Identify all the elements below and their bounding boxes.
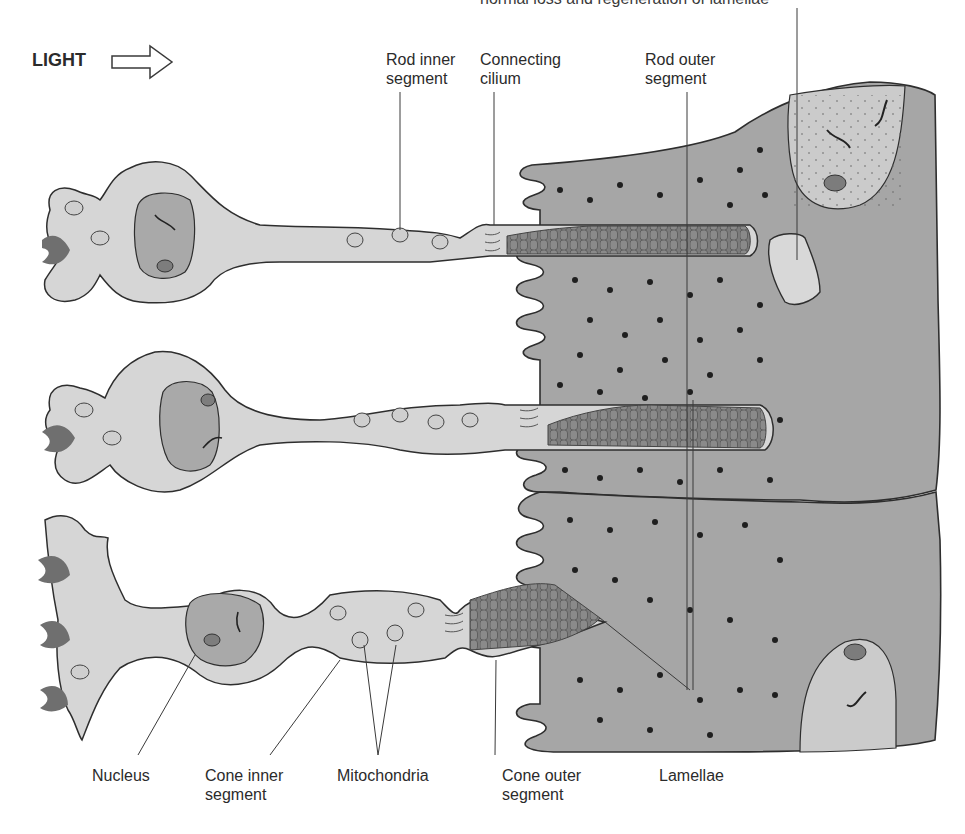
label-lamellae: Lamellae [659,766,724,785]
cone-cell [38,516,605,740]
top-caption-partial: normal loss and regeneration of lamellae [480,0,769,8]
label-cone-outer-segment: Cone outer segment [502,766,581,804]
epithelial-nucleolus-lower [844,644,866,660]
label-rod-outer-segment: Rod outer segment [645,50,715,88]
rod-top-lamellae [507,226,750,254]
cone-nucleus [186,593,264,665]
label-cone-inner-segment: Cone inner segment [205,766,283,804]
label-rod-inner-segment: Rod inner segment [386,50,455,88]
epithelial-nucleolus-upper [824,175,846,191]
photoreceptor-diagram [0,0,965,834]
label-nucleus: Nucleus [92,766,150,785]
light-arrow-icon [112,46,172,78]
light-label: LIGHT [32,50,86,71]
label-mitochondria: Mitochondria [337,766,429,785]
label-connecting-cilium: Connecting cilium [480,50,561,88]
